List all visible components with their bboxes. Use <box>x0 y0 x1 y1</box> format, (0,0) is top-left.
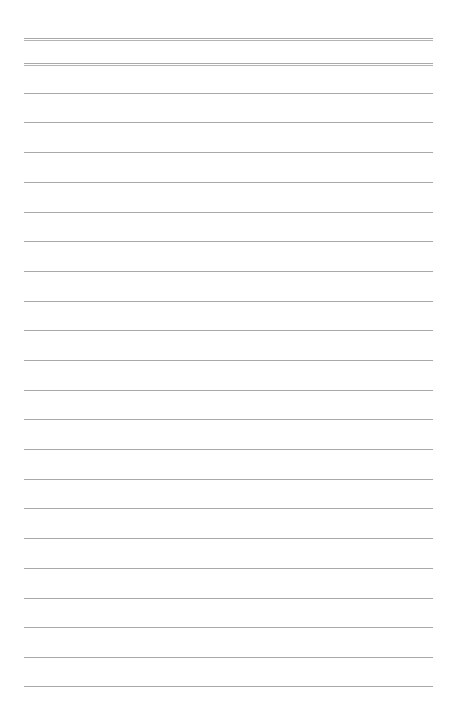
writing-line <box>24 598 433 599</box>
writing-line <box>24 538 433 539</box>
writing-line <box>24 627 433 628</box>
header-rule-1 <box>24 38 433 41</box>
writing-line <box>24 686 433 687</box>
writing-line <box>24 330 433 331</box>
header-rule-2 <box>24 63 433 66</box>
writing-line <box>24 568 433 569</box>
writing-line <box>24 419 433 420</box>
writing-line <box>24 93 433 94</box>
writing-line <box>24 360 433 361</box>
writing-line <box>24 271 433 272</box>
writing-line <box>24 301 433 302</box>
writing-line <box>24 122 433 123</box>
writing-line <box>24 508 433 509</box>
writing-line <box>24 390 433 391</box>
writing-line <box>24 152 433 153</box>
writing-line <box>24 449 433 450</box>
lined-page <box>0 0 454 716</box>
writing-line <box>24 182 433 183</box>
writing-line <box>24 657 433 658</box>
writing-line <box>24 241 433 242</box>
writing-line <box>24 479 433 480</box>
writing-line <box>24 212 433 213</box>
